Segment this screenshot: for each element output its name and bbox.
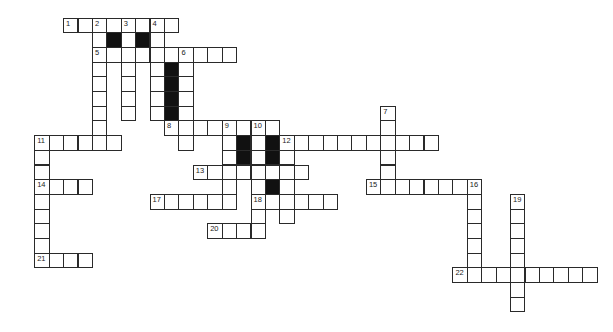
grid-cell[interactable] [193,194,208,210]
grid-cell[interactable] [380,120,395,136]
grid-cell[interactable] [236,120,251,136]
grid-cell[interactable] [63,179,78,195]
grid-cell[interactable] [265,165,280,181]
grid-cell[interactable] [178,194,193,210]
grid-cell[interactable] [424,179,439,195]
grid-cell[interactable] [207,47,222,63]
grid-cell[interactable] [553,267,568,283]
grid-cell[interactable] [178,62,193,78]
grid-cell[interactable] [251,223,266,239]
numbered-cell-2[interactable]: 2 [92,18,107,34]
grid-cell[interactable] [193,120,208,136]
grid-cell[interactable] [323,194,338,210]
grid-cell[interactable] [78,179,93,195]
grid-cell[interactable] [568,267,583,283]
grid-cell[interactable] [251,135,266,151]
grid-cell[interactable] [106,47,121,63]
grid-cell[interactable] [34,165,49,181]
grid-cell[interactable] [150,106,165,122]
grid-cell[interactable] [106,135,121,151]
grid-cell[interactable] [308,135,323,151]
grid-cell[interactable] [78,18,93,34]
grid-cell[interactable] [63,253,78,269]
grid-cell[interactable] [539,267,554,283]
grid-cell[interactable] [34,209,49,225]
grid-cell[interactable] [78,253,93,269]
grid-cell[interactable] [49,253,64,269]
grid-cell[interactable] [510,253,525,269]
grid-cell[interactable] [178,91,193,107]
grid-cell[interactable] [366,135,381,151]
grid-cell[interactable] [467,194,482,210]
grid-cell[interactable] [409,179,424,195]
grid-cell[interactable] [510,297,525,313]
numbered-cell-4[interactable]: 4 [150,18,165,34]
grid-cell[interactable] [467,209,482,225]
grid-cell[interactable] [308,194,323,210]
grid-cell[interactable] [452,179,467,195]
grid-cell[interactable] [106,18,121,34]
grid-cell[interactable] [380,135,395,151]
grid-cell[interactable] [207,120,222,136]
grid-cell[interactable] [178,76,193,92]
grid-cell[interactable] [395,135,410,151]
numbered-cell-15[interactable]: 15 [366,179,381,195]
numbered-cell-6[interactable]: 6 [178,47,193,63]
numbered-cell-7[interactable]: 7 [380,106,395,122]
grid-cell[interactable] [121,62,136,78]
grid-cell[interactable] [467,267,482,283]
numbered-cell-8[interactable]: 8 [164,120,179,136]
grid-cell[interactable] [510,223,525,239]
grid-cell[interactable] [121,76,136,92]
grid-cell[interactable] [279,150,294,166]
grid-cell[interactable] [251,209,266,225]
grid-cell[interactable] [510,282,525,298]
grid-cell[interactable] [34,238,49,254]
grid-cell[interactable] [178,135,193,151]
grid-cell[interactable] [481,267,496,283]
numbered-cell-21[interactable]: 21 [34,253,49,269]
grid-cell[interactable] [496,267,511,283]
numbered-cell-9[interactable]: 9 [222,120,237,136]
grid-cell[interactable] [193,47,208,63]
grid-cell[interactable] [351,135,366,151]
grid-cell[interactable] [150,62,165,78]
grid-cell[interactable] [323,135,338,151]
grid-cell[interactable] [207,165,222,181]
grid-cell[interactable] [164,18,179,34]
numbered-cell-3[interactable]: 3 [121,18,136,34]
grid-cell[interactable] [265,194,280,210]
numbered-cell-20[interactable]: 20 [207,223,222,239]
grid-cell[interactable] [236,223,251,239]
grid-cell[interactable] [92,106,107,122]
grid-cell[interactable] [510,209,525,225]
grid-cell[interactable] [63,135,78,151]
grid-cell[interactable] [121,32,136,48]
numbered-cell-22[interactable]: 22 [452,267,467,283]
grid-cell[interactable] [34,150,49,166]
grid-cell[interactable] [92,32,107,48]
grid-cell[interactable] [467,253,482,269]
numbered-cell-16[interactable]: 16 [467,179,482,195]
grid-cell[interactable] [135,18,150,34]
grid-cell[interactable] [279,165,294,181]
grid-cell[interactable] [92,91,107,107]
grid-cell[interactable] [164,194,179,210]
grid-cell[interactable] [222,135,237,151]
grid-cell[interactable] [409,135,424,151]
grid-cell[interactable] [178,120,193,136]
numbered-cell-19[interactable]: 19 [510,194,525,210]
grid-cell[interactable] [294,194,309,210]
grid-cell[interactable] [222,179,237,195]
numbered-cell-13[interactable]: 13 [193,165,208,181]
grid-cell[interactable] [380,179,395,195]
numbered-cell-5[interactable]: 5 [92,47,107,63]
grid-cell[interactable] [34,194,49,210]
grid-cell[interactable] [294,165,309,181]
grid-cell[interactable] [222,47,237,63]
grid-cell[interactable] [380,150,395,166]
numbered-cell-14[interactable]: 14 [34,179,49,195]
grid-cell[interactable] [424,135,439,151]
grid-cell[interactable] [150,32,165,48]
grid-cell[interactable] [222,194,237,210]
